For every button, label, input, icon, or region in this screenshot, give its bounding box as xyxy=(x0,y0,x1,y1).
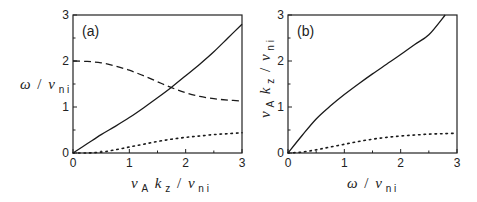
subscript-z: z xyxy=(265,79,276,84)
y-tick-label: 3 xyxy=(277,8,284,22)
subscript-a: A xyxy=(141,183,148,194)
x-tick-label: 3 xyxy=(239,156,246,170)
series-dotted-line xyxy=(288,133,457,153)
nu-symbol: ν xyxy=(188,175,195,191)
v-symbol: v xyxy=(131,175,138,191)
k-symbol: k xyxy=(257,87,273,94)
panel-b-label: (b) xyxy=(297,23,314,39)
subscript-a: A xyxy=(265,101,276,108)
slash: / xyxy=(37,76,42,92)
panel-a-label: (a) xyxy=(82,23,99,39)
y-tick-label: 0 xyxy=(62,146,69,160)
x-tick-label: 2 xyxy=(397,156,404,170)
panel-b-y-axis-label: v A k z / ν n i xyxy=(257,40,277,118)
y-tick-label: 3 xyxy=(62,8,69,22)
x-tick-label: 1 xyxy=(126,156,133,170)
y-tick-label: 2 xyxy=(62,54,69,68)
panel-b: 01230123 (b) v A k z / ν n i ω / ν n i xyxy=(257,8,461,194)
omega-symbol: ω xyxy=(347,175,358,191)
y-label-text: ω / ν n i xyxy=(20,76,69,95)
subscript-ni: n i xyxy=(198,183,209,194)
x-label-text: ω / ν n i xyxy=(347,175,396,194)
y-tick-label: 1 xyxy=(62,100,69,114)
panel-a-x-axis-label: v A k z / ν n i xyxy=(131,175,209,195)
y-tick-label: 0 xyxy=(277,146,284,160)
slash: / xyxy=(257,67,273,72)
slash: / xyxy=(364,175,369,191)
x-tick-label: 2 xyxy=(182,156,189,170)
nu-symbol: ν xyxy=(48,76,55,92)
subscript-ni: n i xyxy=(59,84,70,95)
x-tick-label: 3 xyxy=(454,156,461,170)
series-dashed-line xyxy=(73,61,242,101)
y-tick-label: 1 xyxy=(277,100,284,114)
panel-a-series xyxy=(73,24,242,153)
subscript-ni: n i xyxy=(265,40,276,51)
x-tick-label: 0 xyxy=(70,156,77,170)
panel-b-x-axis-label: ω / ν n i xyxy=(347,175,396,194)
subscript-z: z xyxy=(165,183,170,194)
series-solid-line xyxy=(73,24,242,153)
slash: / xyxy=(177,175,182,191)
panel-a-y-axis-label: ω / ν n i xyxy=(20,76,69,95)
subscript-ni: n i xyxy=(386,183,397,194)
nu-symbol: ν xyxy=(257,54,273,61)
nu-symbol: ν xyxy=(375,175,382,191)
y-tick-label: 2 xyxy=(277,54,284,68)
x-tick-label: 0 xyxy=(285,156,292,170)
v-symbol: v xyxy=(257,111,273,118)
x-label-text: v A k z / ν n i xyxy=(131,175,209,195)
omega-symbol: ω xyxy=(20,76,31,92)
x-tick-label: 1 xyxy=(341,156,348,170)
k-symbol: k xyxy=(155,175,162,191)
panel-a: 01230123 (a) ω / ν n i v A k z / ν n i xyxy=(20,8,246,195)
y-label-text: v A k z / ν n i xyxy=(257,40,277,118)
figure: 01230123 (a) ω / ν n i v A k z / ν n i xyxy=(0,0,477,202)
